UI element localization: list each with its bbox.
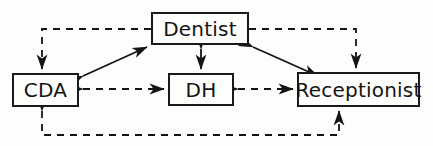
node-receptionist[interactable]: Receptionist [297, 72, 420, 107]
node-receptionist-label: Receptionist [296, 80, 422, 100]
node-dentist[interactable]: Dentist [151, 12, 249, 45]
edge-dentist-cda-dashed [42, 29, 151, 69]
node-cda-label: CDA [24, 80, 67, 100]
diagram-canvas: Dentist CDA DH Receptionist [0, 0, 433, 146]
node-cda[interactable]: CDA [12, 73, 79, 107]
node-dentist-label: Dentist [163, 19, 236, 39]
edge-cda-dentist [83, 47, 147, 76]
node-dh[interactable]: DH [168, 73, 234, 106]
node-dh-label: DH [186, 80, 217, 100]
edge-dentist-receptionist-dashed [249, 29, 356, 68]
edge-cda-receptionist-dashed [42, 111, 339, 135]
